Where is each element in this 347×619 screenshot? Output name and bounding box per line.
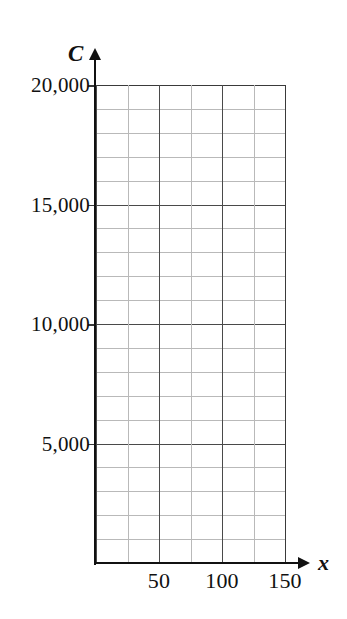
minor-gridline-horizontal: [96, 539, 285, 540]
minor-gridline-horizontal: [96, 181, 285, 182]
major-gridline-horizontal: [96, 85, 285, 86]
y-axis-tick-label: 15,000: [0, 194, 90, 215]
minor-gridline-horizontal: [96, 491, 285, 492]
major-gridline-horizontal: [96, 205, 285, 206]
major-gridline-vertical: [159, 85, 160, 563]
y-axis-tick-label: 20,000: [0, 75, 90, 96]
minor-gridline-horizontal: [96, 420, 285, 421]
minor-gridline-horizontal: [96, 276, 285, 277]
x-axis-line: [94, 562, 300, 564]
minor-gridline-horizontal: [96, 133, 285, 134]
minor-gridline-horizontal: [96, 300, 285, 301]
plot-area: [96, 85, 285, 563]
x-axis-tick-label: 100: [205, 570, 239, 592]
minor-gridline-horizontal: [96, 157, 285, 158]
x-axis-tick-label: 150: [268, 570, 302, 592]
x-axis-tick-label: 50: [148, 570, 170, 592]
minor-gridline-horizontal: [96, 109, 285, 110]
major-gridline-horizontal: [96, 444, 285, 445]
major-gridline-horizontal: [96, 324, 285, 325]
y-axis-tick-label: 10,000: [0, 314, 90, 335]
minor-gridline-horizontal: [96, 252, 285, 253]
y-axis-arrow-icon: [89, 48, 101, 60]
minor-gridline-horizontal: [96, 515, 285, 516]
minor-gridline-vertical: [128, 85, 129, 563]
y-axis-line: [94, 58, 96, 565]
minor-gridline-horizontal: [96, 467, 285, 468]
minor-gridline-vertical: [191, 85, 192, 563]
y-axis-tick-label: 5,000: [0, 433, 90, 454]
graph-figure: C x 5,00010,00015,00020,000 50100150: [0, 0, 347, 619]
y-axis-tick-labels: 5,00010,00015,00020,000: [0, 0, 90, 619]
minor-gridline-vertical: [254, 85, 255, 563]
grid-lines: [96, 85, 285, 563]
x-axis-label: x: [318, 552, 329, 574]
minor-gridline-horizontal: [96, 396, 285, 397]
minor-gridline-horizontal: [96, 372, 285, 373]
major-gridline-vertical: [222, 85, 223, 563]
minor-gridline-horizontal: [96, 228, 285, 229]
major-gridline-vertical: [285, 85, 286, 563]
minor-gridline-horizontal: [96, 348, 285, 349]
